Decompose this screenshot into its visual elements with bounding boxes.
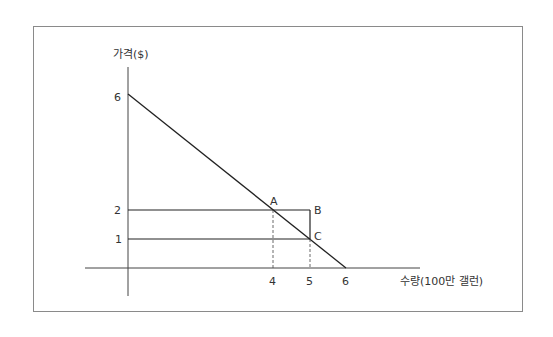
x-axis-label: 수량(100만 갤런) bbox=[400, 275, 483, 288]
y-axis-label: 가격($) bbox=[113, 48, 149, 61]
y-tick-1: 1 bbox=[115, 233, 122, 246]
y-tick-2: 2 bbox=[114, 204, 121, 217]
x-tick-4: 4 bbox=[269, 275, 276, 288]
point-label-b: B bbox=[314, 204, 322, 217]
chart: 가격($) 수량(100만 갤런) 6 2 1 4 5 6 A B C bbox=[0, 0, 553, 337]
x-tick-5: 5 bbox=[306, 275, 313, 288]
x-tick-6: 6 bbox=[342, 275, 349, 288]
point-label-a: A bbox=[270, 195, 278, 208]
y-tick-6: 6 bbox=[114, 91, 121, 104]
point-label-c: C bbox=[314, 230, 322, 243]
